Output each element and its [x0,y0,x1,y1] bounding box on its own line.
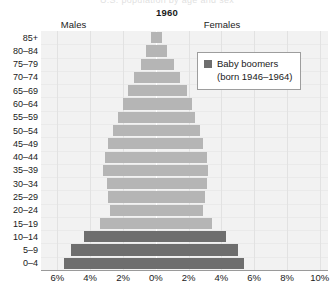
x-axis-line [41,270,328,271]
y-axis-tick-label: 85+ [0,33,38,43]
x-axis-tick-label: 0% [149,272,163,284]
pyramid-band [41,190,328,203]
legend-sublabel: (born 1946–1964) [217,71,293,83]
bar-female [156,152,207,163]
x-axis-tick-label: 4% [83,272,97,284]
legend-label: Baby boomers [217,58,278,70]
y-axis-tick-label: 45–49 [0,139,38,149]
y-axis-tick-label: 5–9 [0,245,38,255]
x-axis-tick-label: 2% [182,272,196,284]
y-axis-tick-label: 70–74 [0,72,38,82]
bar-male [108,191,156,202]
bar-male [113,125,156,136]
bar-male [128,85,156,96]
bar-female [156,178,207,189]
y-axis-tick-label: 10–14 [0,232,38,242]
y-axis-tick-label: 65–69 [0,86,38,96]
x-axis-tick-label: 4% [215,272,229,284]
y-axis-tick-label: 60–64 [0,99,38,109]
clipped-header-label: U.S. population by age and sex [0,0,334,5]
bar-male [84,231,156,242]
bar-female [156,258,245,269]
bar-male [100,218,156,229]
y-axis-tick-label: 20–24 [0,205,38,215]
pyramid-band [41,204,328,217]
y-axis-tick-label: 80–84 [0,46,38,56]
bar-male [103,165,155,176]
legend: Baby boomers (born 1946–1964) [197,52,301,90]
x-axis-tick-label: 6% [51,272,65,284]
bar-male [146,45,156,56]
pyramid-band [41,177,328,190]
bar-female [156,32,163,43]
bar-male [107,178,156,189]
y-axis-tick-label: 0–4 [0,258,38,268]
pyramid-band [41,243,328,256]
y-axis-tick-label: 55–59 [0,112,38,122]
bar-female [156,138,204,149]
bar-male [64,258,156,269]
pyramid-band [41,257,328,270]
bar-male [123,98,156,109]
pyramid-band [41,164,328,177]
bar-male [110,205,156,216]
legend-item-boomers: Baby boomers [204,58,293,70]
bar-female [156,85,187,96]
x-axis-tick-label: 2% [116,272,130,284]
pyramid-band [41,151,328,164]
bar-female [156,205,204,216]
bar-male [118,112,156,123]
bar-female [156,45,167,56]
bar-female [156,98,192,109]
bar-female [156,231,227,242]
bar-male [141,59,156,70]
x-axis-tick-label: 6% [247,272,261,284]
bar-female [156,218,212,229]
pyramid-band [41,137,328,150]
bar-male [108,138,156,149]
bar-female [156,125,200,136]
y-axis-tick-label: 75–79 [0,59,38,69]
bar-female [156,244,238,255]
y-axis-tick-labels: 85+80–8475–7970–7465–6960–6455–5950–5445… [0,31,38,270]
females-column-label: Females [147,19,297,30]
pyramid-band [41,111,328,124]
bar-female [156,191,205,202]
legend-swatch-icon [204,60,212,68]
bar-female [156,112,195,123]
x-axis-tick-labels: 6%4%2%0%2%4%6%8%10% [41,272,328,288]
x-axis-tick-label: 8% [280,272,294,284]
x-axis-tick-label: 10% [310,272,329,284]
clipped-header-text: U.S. population by age and sex [0,0,334,7]
population-pyramid-chart: U.S. population by age and sex 1960 Male… [0,0,334,300]
pyramid-band [41,124,328,137]
bar-female [156,59,174,70]
pyramid-band [41,97,328,110]
bar-male [134,72,155,83]
bar-male [71,244,156,255]
y-axis-tick-label: 35–39 [0,165,38,175]
pyramid-band [41,230,328,243]
pyramid-band [41,31,328,44]
y-axis-tick-label: 50–54 [0,126,38,136]
y-axis-tick-label: 30–34 [0,179,38,189]
bar-female [156,72,181,83]
pyramid-band [41,217,328,230]
y-axis-tick-label: 25–29 [0,192,38,202]
y-axis-tick-label: 15–19 [0,219,38,229]
males-column-label: Males [0,19,147,30]
bar-female [156,165,208,176]
y-axis-tick-label: 40–44 [0,152,38,162]
bar-male [105,152,156,163]
page-title: 1960 [0,7,334,18]
